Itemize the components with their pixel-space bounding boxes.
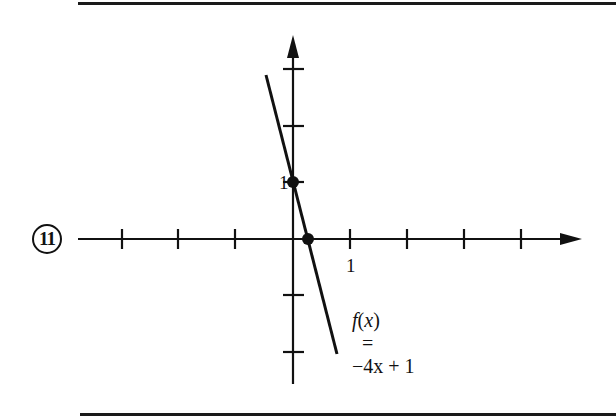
function-equation: f(x) = −4x + 1 [342, 286, 415, 378]
x-axis [78, 229, 582, 249]
function-line [266, 75, 337, 354]
y-intercept-point [287, 176, 299, 188]
equation-equals: = [362, 332, 373, 354]
x-tick-label-1: 1 [346, 255, 356, 277]
y-axis-arrow-icon [287, 35, 299, 58]
equation-func: f [352, 309, 358, 331]
equation-rhs: −4x + 1 [352, 355, 415, 377]
x-axis-arrow-icon [560, 233, 582, 245]
function-graph [0, 0, 616, 419]
equation-lhs: f(x) [352, 309, 380, 331]
y-tick-label-1: 1 [279, 172, 289, 194]
equation-var: x [364, 309, 373, 331]
x-intercept-point [302, 233, 314, 245]
